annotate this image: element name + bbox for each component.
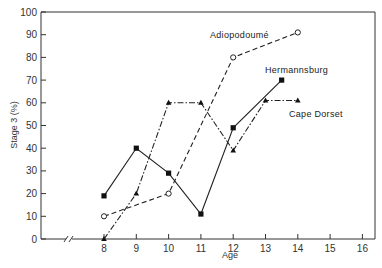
- series-labels: AdiopodouméHermannsburgCape Dorset: [210, 30, 343, 119]
- square-marker-icon: [198, 211, 203, 216]
- y-tick-label: 70: [26, 75, 38, 86]
- x-tick-label: 11: [196, 243, 207, 254]
- y-tick-label: 60: [26, 97, 38, 108]
- square-marker-icon: [166, 171, 171, 176]
- series-label: Adiopodoumé: [210, 30, 269, 40]
- triangle-marker-icon: [295, 98, 301, 103]
- y-axis-title: Stage 3 (%): [9, 101, 19, 149]
- triangle-marker-icon: [198, 100, 204, 105]
- circle-marker-icon: [295, 30, 300, 35]
- x-tick-label: 14: [292, 243, 304, 254]
- x-tick-label: 16: [357, 243, 369, 254]
- series-hermannsburg: [101, 78, 284, 217]
- line-chart: 0102030405060708090100 8910111213141516 …: [0, 0, 382, 268]
- circle-marker-icon: [101, 214, 106, 219]
- y-tick-label: 40: [26, 143, 38, 154]
- series-label: Cape Dorset: [289, 109, 343, 119]
- y-tick-label: 50: [26, 120, 38, 131]
- circle-marker-icon: [231, 55, 236, 60]
- square-marker-icon: [231, 125, 236, 130]
- x-tick-label: 8: [101, 243, 107, 254]
- x-tick-label: 15: [325, 243, 337, 254]
- triangle-marker-icon: [134, 191, 140, 196]
- x-tick-label: 10: [163, 243, 175, 254]
- square-marker-icon: [101, 193, 106, 198]
- y-tick-label: 30: [26, 165, 38, 176]
- series-cape-dorset: [101, 98, 300, 241]
- x-tick-label: 9: [134, 243, 140, 254]
- y-tick-label: 80: [26, 52, 38, 63]
- series-label: Hermannsburg: [265, 65, 328, 75]
- square-marker-icon: [134, 146, 139, 151]
- y-tick-label: 0: [31, 234, 37, 245]
- plot-border: [41, 12, 375, 239]
- x-tick-label: 13: [260, 243, 272, 254]
- y-axis: 0102030405060708090100: [20, 7, 46, 245]
- series-group: [101, 30, 300, 241]
- plot-frame: [41, 12, 375, 242]
- y-tick-label: 90: [26, 29, 38, 40]
- y-tick-label: 10: [26, 211, 38, 222]
- circle-marker-icon: [166, 191, 171, 196]
- x-axis-title: Age: [222, 250, 238, 260]
- y-tick-label: 100: [20, 7, 37, 18]
- y-tick-label: 20: [26, 188, 38, 199]
- square-marker-icon: [279, 78, 284, 83]
- series-adiopodoum-: [101, 30, 300, 219]
